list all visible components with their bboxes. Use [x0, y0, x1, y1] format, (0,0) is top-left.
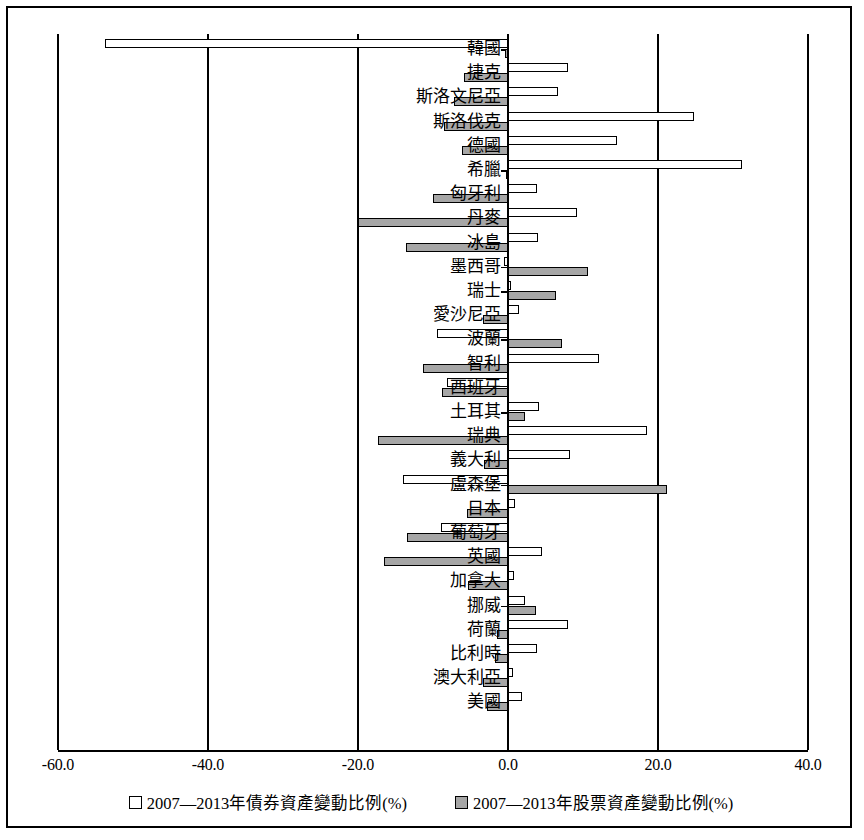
x-axis-tick-label: 20.0 — [618, 756, 698, 774]
x-axis-tick — [357, 742, 359, 750]
chart-category-row: 愛沙尼亞 — [8, 304, 854, 328]
legend-swatch-equity-icon — [455, 796, 468, 809]
legend-item-bond: 2007—2013年債券資產變動比例(%) — [129, 790, 407, 814]
bar-bond — [508, 499, 515, 508]
bar-bond — [508, 402, 539, 411]
chart-category-row: 捷克 — [8, 62, 854, 86]
bar-bond — [508, 208, 577, 217]
category-label: 匈牙利 — [196, 183, 501, 205]
category-label: 義大利 — [196, 449, 501, 471]
bar-bond — [504, 257, 508, 266]
category-label: 德國 — [196, 135, 501, 157]
x-axis-line — [58, 750, 808, 752]
x-axis-tick — [657, 742, 659, 750]
bar-bond — [508, 233, 538, 242]
category-label: 韓國 — [196, 38, 501, 60]
x-axis-tick-label: -20.0 — [318, 756, 398, 774]
y-axis-tick — [501, 412, 508, 414]
legend-label-bond: 2007—2013年債券資產變動比例(%) — [147, 790, 407, 814]
category-label: 斯洛伐克 — [196, 111, 501, 133]
category-label: 瑞士 — [196, 280, 501, 302]
chart-category-row: 義大利 — [8, 449, 854, 473]
bar-bond — [508, 668, 513, 677]
chart-category-row: 斯洛伐克 — [8, 111, 854, 135]
category-label: 斯洛文尼亞 — [196, 86, 501, 108]
chart-category-row: 挪威 — [8, 595, 854, 619]
category-label: 英國 — [196, 546, 501, 568]
category-label: 墨西哥 — [196, 256, 501, 278]
chart-category-row: 瑞士 — [8, 280, 854, 304]
bar-equity — [508, 267, 588, 276]
chart-category-row: 澳大利亞 — [8, 667, 854, 691]
chart-category-row: 德國 — [8, 135, 854, 159]
bar-equity — [506, 170, 509, 179]
bar-bond — [508, 281, 511, 290]
chart-category-row: 韓國 — [8, 38, 854, 62]
category-label: 挪威 — [196, 595, 501, 617]
legend-item-equity: 2007—2013年股票資產變動比例(%) — [455, 790, 733, 814]
bar-bond — [508, 692, 522, 701]
x-axis-tick-label: -40.0 — [168, 756, 248, 774]
x-axis-tick — [507, 742, 509, 750]
chart-category-row: 丹麥 — [8, 207, 854, 231]
category-label: 西班牙 — [196, 377, 501, 399]
bar-bond — [508, 112, 694, 121]
category-label: 波蘭 — [196, 328, 501, 350]
category-label: 瑞典 — [196, 425, 501, 447]
category-label: 丹麥 — [196, 207, 501, 229]
chart-category-row: 智利 — [8, 353, 854, 377]
x-axis-tick — [57, 742, 59, 750]
y-axis-tick — [501, 606, 508, 608]
x-axis-tick-label: 40.0 — [768, 756, 848, 774]
y-axis-tick — [501, 291, 508, 293]
bar-equity — [508, 339, 562, 348]
legend-swatch-bond-icon — [129, 796, 142, 809]
bar-bond — [508, 305, 519, 314]
category-label: 愛沙尼亞 — [196, 304, 501, 326]
category-label: 希臘 — [196, 159, 501, 181]
x-axis-tick — [207, 742, 209, 750]
category-label: 捷克 — [196, 62, 501, 84]
category-label: 日本 — [196, 498, 501, 520]
bar-bond — [508, 354, 599, 363]
chart-category-row: 葡萄牙 — [8, 522, 854, 546]
chart-category-row: 西班牙 — [8, 377, 854, 401]
chart-category-row: 冰島 — [8, 232, 854, 256]
bar-bond — [508, 160, 742, 169]
chart-category-row: 希臘 — [8, 159, 854, 183]
bar-bond — [508, 136, 617, 145]
chart-plot-area: -60.0-40.0-20.00.020.040.0韓國捷克斯洛文尼亞斯洛伐克德… — [8, 8, 854, 830]
bar-bond — [508, 63, 568, 72]
chart-frame: -60.0-40.0-20.00.020.040.0韓國捷克斯洛文尼亞斯洛伐克德… — [6, 6, 852, 828]
legend-label-equity: 2007—2013年股票資產變動比例(%) — [473, 790, 733, 814]
chart-category-row: 美國 — [8, 691, 854, 715]
category-label: 美國 — [196, 691, 501, 713]
chart-category-row: 荷蘭 — [8, 619, 854, 643]
chart-category-row: 盧森堡 — [8, 474, 854, 498]
x-axis-tick-label: -60.0 — [18, 756, 98, 774]
bar-bond — [508, 644, 537, 653]
chart-category-row: 斯洛文尼亞 — [8, 86, 854, 110]
chart-legend: 2007—2013年債券資產變動比例(%) 2007—2013年股票資產變動比例… — [8, 787, 854, 817]
category-label: 荷蘭 — [196, 619, 501, 641]
bar-bond — [508, 571, 514, 580]
chart-category-row: 加拿大 — [8, 570, 854, 594]
category-label: 土耳其 — [196, 401, 501, 423]
bar-bond — [508, 547, 542, 556]
bar-equity — [508, 412, 525, 421]
category-label: 澳大利亞 — [196, 667, 501, 689]
x-axis-tick-label: 0.0 — [468, 756, 548, 774]
y-axis-tick — [501, 339, 508, 341]
chart-category-row: 日本 — [8, 498, 854, 522]
bar-equity — [505, 49, 508, 58]
y-axis-tick — [501, 485, 508, 487]
bar-bond — [508, 87, 558, 96]
bar-bond — [508, 596, 525, 605]
chart-category-row: 比利時 — [8, 643, 854, 667]
chart-category-row: 波蘭 — [8, 328, 854, 352]
chart-category-row: 英國 — [8, 546, 854, 570]
y-axis-tick — [501, 267, 508, 269]
category-label: 比利時 — [196, 643, 501, 665]
category-label: 葡萄牙 — [196, 522, 501, 544]
chart-category-row: 匈牙利 — [8, 183, 854, 207]
